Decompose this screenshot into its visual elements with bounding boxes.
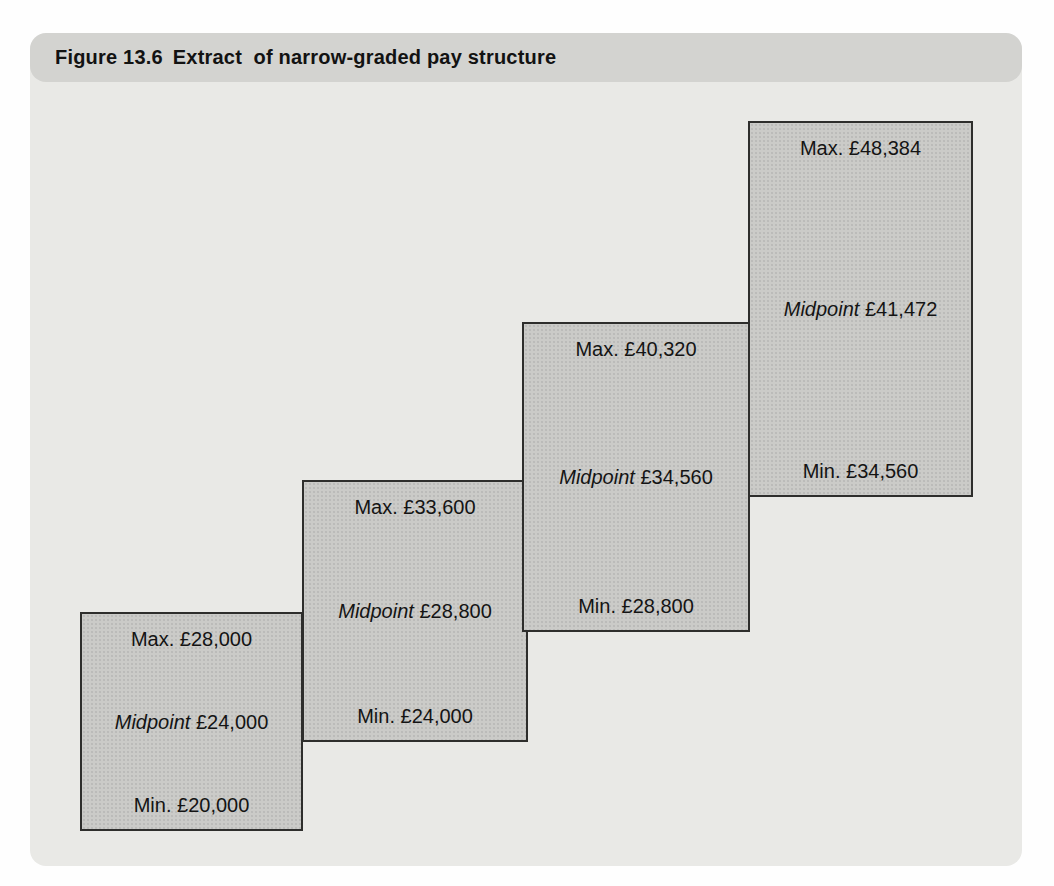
figure-page: Figure 13.6 Extract of narrow-graded pay… bbox=[0, 0, 1054, 886]
grade-4-midpoint-label: Midpoint£41,472 bbox=[750, 298, 971, 321]
grade-4-midpoint-word: Midpoint bbox=[784, 298, 860, 320]
grade-3-max-label: Max. £40,320 bbox=[524, 338, 748, 361]
grade-1-midpoint-word: Midpoint bbox=[115, 710, 191, 732]
grade-2-midpoint-value: £28,800 bbox=[419, 600, 491, 622]
grade-1-max-label: Max. £28,000 bbox=[82, 628, 301, 651]
grade-3-midpoint-label: Midpoint£34,560 bbox=[524, 466, 748, 489]
pay-grade-box-2: Max. £33,600 Midpoint£28,800 Min. £24,00… bbox=[302, 480, 528, 742]
grade-3-midpoint-value: £34,560 bbox=[640, 466, 712, 488]
grade-4-midpoint-value: £41,472 bbox=[865, 298, 937, 320]
figure-title-bar: Figure 13.6 Extract of narrow-graded pay… bbox=[30, 33, 1022, 82]
grade-2-midpoint-label: Midpoint£28,800 bbox=[304, 600, 526, 623]
grade-2-min-label: Min. £24,000 bbox=[304, 705, 526, 728]
pay-grade-box-1: Max. £28,000 Midpoint£24,000 Min. £20,00… bbox=[80, 612, 303, 831]
pay-grade-box-3: Max. £40,320 Midpoint£34,560 Min. £28,80… bbox=[522, 322, 750, 632]
grade-2-max-label: Max. £33,600 bbox=[304, 496, 526, 519]
figure-number-label: Figure 13.6 bbox=[55, 46, 163, 69]
grade-1-midpoint-value: £24,000 bbox=[196, 710, 268, 732]
grade-2-midpoint-word: Midpoint bbox=[338, 600, 414, 622]
grade-3-min-label: Min. £28,800 bbox=[524, 595, 748, 618]
grade-3-midpoint-word: Midpoint bbox=[559, 466, 635, 488]
pay-grade-box-4: Max. £48,384 Midpoint£41,472 Min. £34,56… bbox=[748, 121, 973, 497]
grade-4-min-label: Min. £34,560 bbox=[750, 460, 971, 483]
grade-4-max-label: Max. £48,384 bbox=[750, 137, 971, 160]
grade-1-midpoint-label: Midpoint£24,000 bbox=[82, 710, 301, 733]
figure-title: Extract of narrow-graded pay structure bbox=[173, 46, 556, 69]
grade-1-min-label: Min. £20,000 bbox=[82, 794, 301, 817]
